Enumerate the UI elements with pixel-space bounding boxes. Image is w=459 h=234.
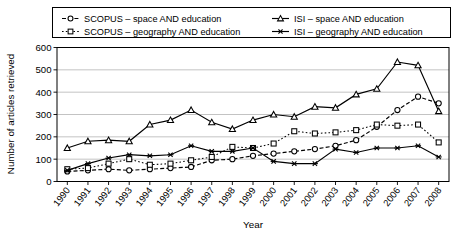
marker-open-square	[230, 144, 235, 149]
marker-open-circle	[395, 107, 400, 112]
marker-open-square	[312, 131, 317, 136]
series-1	[65, 122, 441, 172]
x-tick-label: 1998	[216, 185, 238, 208]
marker-open-triangle	[394, 59, 400, 65]
marker-star	[291, 161, 297, 165]
marker-open-triangle	[436, 108, 442, 114]
marker-star	[436, 155, 442, 159]
marker-open-circle	[292, 149, 297, 154]
legend-item-label: SCOPUS – space AND education	[84, 14, 221, 24]
legend-item-label: SCOPUS – geography AND education	[84, 27, 240, 37]
marker-star	[209, 149, 215, 153]
x-tick-label: 1990	[51, 185, 73, 208]
x-tick-label: 2007	[401, 185, 423, 208]
marker-open-square	[354, 128, 359, 133]
x-tick-label: 2002	[298, 185, 320, 208]
marker-open-square	[189, 158, 194, 163]
x-axis-title: Year	[243, 219, 264, 230]
x-tick-label: 2004	[339, 185, 361, 208]
marker-open-circle	[312, 147, 317, 152]
chart-legend: SCOPUS – space AND educationISI – space …	[53, 8, 451, 38]
y-tick-label: 500	[35, 64, 51, 75]
y-tick-label: 600	[35, 42, 51, 53]
marker-star	[312, 161, 318, 165]
y-tick-label: 300	[35, 109, 51, 120]
marker-open-circle	[250, 153, 255, 158]
marker-open-circle	[127, 168, 132, 173]
marker-open-square	[127, 157, 132, 162]
marker-star	[415, 144, 421, 148]
y-axis-title: Number of articles retrieved	[5, 54, 16, 174]
x-tick-label: 1993	[112, 185, 134, 208]
x-tick-label: 2005	[360, 185, 382, 208]
marker-open-circle	[271, 151, 276, 156]
marker-open-circle	[436, 101, 441, 106]
y-tick-label: 200	[35, 131, 51, 142]
series-container	[64, 59, 442, 174]
series-line	[67, 62, 438, 148]
marker-open-circle	[106, 167, 111, 172]
marker-open-square	[106, 161, 111, 166]
marker-star	[374, 146, 380, 150]
marker-open-circle	[189, 164, 194, 169]
marker-open-circle	[415, 94, 420, 99]
x-tick-label: 1992	[92, 185, 114, 208]
legend-item-0[interactable]: SCOPUS – space AND education	[62, 14, 221, 24]
x-tick-label: 1995	[154, 185, 176, 208]
articles-retrieved-line-chart: SCOPUS – space AND educationISI – space …	[0, 0, 459, 234]
legend-item-3[interactable]: ISI – geography AND education	[272, 27, 423, 37]
legend-item-label: ISI – geography AND education	[294, 27, 423, 37]
x-tick-label: 1991	[71, 185, 93, 208]
marker-open-square	[374, 122, 379, 127]
marker-open-square	[436, 140, 441, 145]
marker-open-square	[168, 161, 173, 166]
legend-item-label: ISI – space AND education	[294, 14, 404, 24]
chart-figure: SCOPUS – space AND educationISI – space …	[0, 0, 459, 234]
marker-open-square	[209, 154, 214, 159]
marker-open-square	[85, 166, 90, 171]
series-0	[65, 94, 442, 174]
x-tick-label: 1999	[236, 185, 258, 208]
marker-open-triangle	[188, 107, 194, 113]
marker-open-square	[68, 29, 73, 34]
marker-star	[147, 154, 153, 158]
x-tick-label: 1996	[174, 185, 196, 208]
marker-open-circle	[354, 138, 359, 143]
marker-open-triangle	[167, 117, 173, 123]
x-tick-label: 2008	[422, 185, 444, 208]
marker-open-square	[416, 122, 421, 127]
y-tick-label: 100	[35, 154, 51, 165]
marker-star	[271, 159, 277, 163]
marker-open-square	[147, 162, 152, 167]
legend-item-2[interactable]: SCOPUS – geography AND education	[62, 27, 240, 37]
marker-star	[353, 150, 359, 154]
marker-open-square	[292, 129, 297, 134]
marker-open-circle	[230, 157, 235, 162]
marker-star	[394, 146, 400, 150]
marker-open-square	[271, 141, 276, 146]
x-tick-label: 2003	[319, 185, 341, 208]
marker-open-circle	[68, 16, 73, 21]
x-tick-label: 2001	[278, 185, 300, 208]
marker-star	[188, 144, 194, 148]
x-tick-label: 2000	[257, 185, 279, 208]
x-tick-label: 1994	[133, 185, 155, 208]
x-tick-label: 1997	[195, 185, 217, 208]
y-tick-label: 400	[35, 87, 51, 98]
marker-open-square	[395, 123, 400, 128]
y-tick-label: 0	[46, 176, 51, 187]
marker-open-square	[333, 130, 338, 135]
marker-star	[167, 153, 173, 157]
x-tick-label: 2006	[381, 185, 403, 208]
marker-open-triangle	[209, 119, 215, 125]
series-line	[67, 97, 438, 172]
